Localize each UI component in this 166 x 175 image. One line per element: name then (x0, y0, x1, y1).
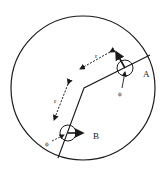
point-a-marker (116, 52, 133, 88)
path-line (58, 55, 150, 158)
label-b: B (93, 131, 99, 141)
label-r-lower: r (54, 97, 57, 105)
label-phi-b: ϕ (45, 140, 49, 148)
outer-circle (11, 16, 155, 160)
label-a: A (143, 69, 150, 79)
diagram: A B r r ϕ ϕ (0, 0, 166, 175)
label-phi-a: ϕ (118, 90, 122, 98)
